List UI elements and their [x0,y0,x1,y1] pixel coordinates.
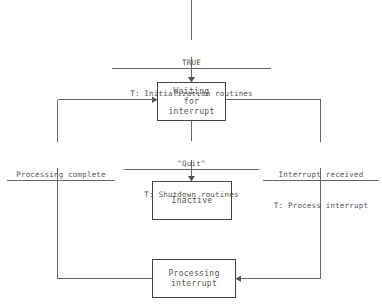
transition-guard: Interrupt received [263,170,379,181]
transition-label-processing-complete: Processing complete [7,150,115,201]
transition-action: T: Initialization routines [112,89,271,99]
transition-action: T: Process interrupt [263,201,379,211]
state-label-line: Processing [168,269,219,279]
transition-label-quit: "Quit" T: Shutdown routines [124,139,259,220]
transition-guard: TRUE [112,58,271,69]
transition-action: T: Shutdown routines [124,190,259,200]
arrowhead-interrupt [236,276,242,283]
transition-label-interrupt-received: Interrupt received T: Process interrupt [263,150,379,231]
transition-label-initial: TRUE T: Initialization routines [112,38,271,119]
state-box-processing-interrupt[interactable]: Processing interrupt [152,259,236,298]
transition-guard: Processing complete [7,170,115,181]
state-diagram: Waiting for interrupt Inactive Processin… [0,0,382,305]
transition-guard: "Quit" [124,159,259,170]
state-label-line: interrupt [171,279,217,289]
